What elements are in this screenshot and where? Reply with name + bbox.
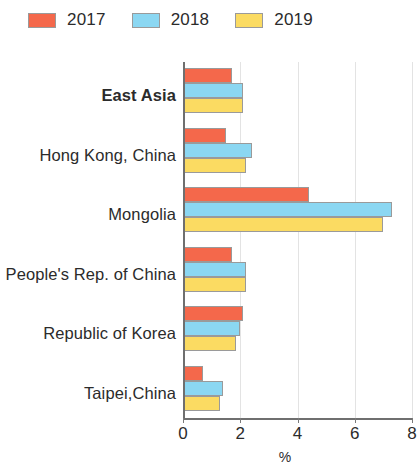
bar-2017 xyxy=(183,306,243,321)
category-label: Hong Kong, China xyxy=(40,145,176,164)
bar-2018 xyxy=(183,262,246,277)
bar-2017 xyxy=(183,128,226,143)
bar-group: Taipei,China xyxy=(0,364,420,422)
category-label: Republic of Korea xyxy=(43,324,176,343)
bar-group: Mongolia xyxy=(0,185,420,243)
x-tick-4 xyxy=(298,418,299,423)
x-tick-label-4: 4 xyxy=(293,424,302,444)
bar-2017 xyxy=(183,187,309,202)
bar-2017 xyxy=(183,366,203,381)
bar-2017 xyxy=(183,68,232,83)
bar-2019 xyxy=(183,336,236,351)
x-tick-2 xyxy=(240,418,241,423)
bar-2018 xyxy=(183,83,243,98)
bar-2018 xyxy=(183,143,252,158)
x-axis-title: % xyxy=(279,449,291,465)
x-tick-6 xyxy=(355,418,356,423)
bar-group: Republic of Korea xyxy=(0,304,420,362)
bar-group: East Asia xyxy=(0,66,420,124)
x-tick-label-6: 6 xyxy=(350,424,359,444)
x-tick-label-0: 0 xyxy=(178,424,187,444)
bar-2019 xyxy=(183,277,246,292)
x-tick-label-2: 2 xyxy=(236,424,245,444)
bar-2018 xyxy=(183,202,392,217)
x-tick-8 xyxy=(412,418,413,423)
x-tick-0 xyxy=(183,418,184,423)
bar-chart: East AsiaHong Kong, ChinaMongoliaPeople'… xyxy=(0,0,420,472)
bar-group: People's Rep. of China xyxy=(0,245,420,303)
bar-2017 xyxy=(183,247,232,262)
bar-group: Hong Kong, China xyxy=(0,126,420,184)
bar-2018 xyxy=(183,381,223,396)
bar-2019 xyxy=(183,98,243,113)
category-label: Mongolia xyxy=(108,205,176,224)
bar-2018 xyxy=(183,321,240,336)
bar-2019 xyxy=(183,396,220,411)
category-label: People's Rep. of China xyxy=(6,264,176,283)
bar-2019 xyxy=(183,158,246,173)
x-tick-label-8: 8 xyxy=(407,424,416,444)
category-label: East Asia xyxy=(101,86,176,105)
y-axis-line xyxy=(183,62,185,419)
category-label: Taipei,China xyxy=(84,383,176,402)
bar-2019 xyxy=(183,217,383,232)
